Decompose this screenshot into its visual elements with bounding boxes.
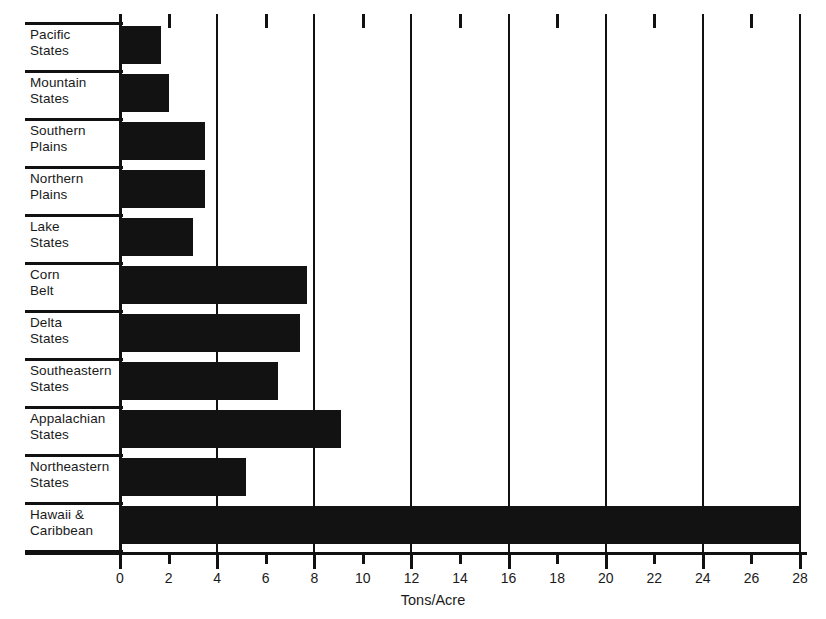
bar-row-group: Pacific StatesMountain StatesSouthern Pl… (0, 22, 826, 550)
row-separator (25, 166, 123, 169)
x-axis-tick-20 (605, 552, 608, 569)
x-axis-line (25, 552, 807, 555)
x-axis-ticklabel: 10 (355, 570, 371, 586)
x-axis-ticklabel: 16 (501, 570, 517, 586)
row-separator (25, 358, 123, 361)
bar-row: Mountain States (0, 70, 826, 118)
bar-row: Southern Plains (0, 118, 826, 166)
bar-row: Southeastern States (0, 358, 826, 406)
x-axis-tick-2 (168, 552, 171, 564)
row-separator (25, 70, 123, 73)
x-axis-tick-28 (799, 552, 802, 569)
x-axis-title-text: Tons/Acre (401, 592, 465, 608)
bar-row: Appalachian States (0, 406, 826, 454)
x-axis-tick-12 (410, 552, 413, 569)
bar-row: Delta States (0, 310, 826, 358)
bar (120, 362, 278, 400)
x-axis-tick-26 (750, 552, 753, 564)
bar (120, 122, 205, 160)
x-axis-tick-6 (265, 552, 268, 564)
row-separator (25, 502, 123, 505)
bar-row: Northern Plains (0, 166, 826, 214)
row-separator (25, 214, 123, 217)
x-axis-tick-24 (702, 552, 705, 569)
bar-category-label: Corn Belt (30, 267, 118, 298)
x-axis-title: Tons/Acre (0, 592, 826, 608)
x-axis-ticklabel: 4 (213, 570, 221, 586)
row-separator (25, 406, 123, 409)
x-axis-ticklabel: 20 (598, 570, 614, 586)
bar (120, 458, 246, 496)
x-axis-ticklabel: 14 (452, 570, 468, 586)
row-separator (25, 262, 123, 265)
bar (120, 26, 161, 64)
bar-category-label: Mountain States (30, 75, 118, 106)
x-axis-ticklabel: 2 (165, 570, 173, 586)
x-axis-ticklabel: 28 (792, 570, 808, 586)
bar-category-label: Delta States (30, 315, 118, 346)
x-axis-ticklabel: 26 (744, 570, 760, 586)
x-axis-ticklabel: 12 (404, 570, 420, 586)
x-axis-ticklabel: 0 (116, 570, 124, 586)
bar (120, 314, 300, 352)
plot-area: Pacific StatesMountain StatesSouthern Pl… (0, 0, 826, 619)
x-axis-ticklabel: 6 (262, 570, 270, 586)
bar-category-label: Appalachian States (30, 411, 118, 442)
bar-row: Northeastern States (0, 454, 826, 502)
bar-row: Hawaii & Caribbean (0, 502, 826, 550)
bar (120, 170, 205, 208)
bar-category-label: Southeastern States (30, 363, 118, 394)
bar (120, 266, 307, 304)
x-axis-tick-22 (653, 552, 656, 564)
x-axis-tick-14 (459, 552, 462, 564)
row-separator (25, 310, 123, 313)
bar (120, 506, 800, 544)
x-axis-ticklabel: 22 (646, 570, 662, 586)
x-axis-ticklabel: 18 (549, 570, 565, 586)
bar-category-label: Southern Plains (30, 123, 118, 154)
bar-category-label: Hawaii & Caribbean (30, 507, 118, 538)
x-axis-ticklabel: 8 (310, 570, 318, 586)
bar (120, 410, 341, 448)
row-separator (25, 22, 123, 25)
bar-row: Lake States (0, 214, 826, 262)
bar-row: Pacific States (0, 22, 826, 70)
x-axis-tick-16 (508, 552, 511, 569)
row-separator (25, 118, 123, 121)
bar-row: Corn Belt (0, 262, 826, 310)
row-separator (25, 454, 123, 457)
bar (120, 74, 169, 112)
bar-category-label: Pacific States (30, 27, 118, 58)
bar (120, 218, 193, 256)
bar-category-label: Lake States (30, 219, 118, 250)
x-axis-tick-4 (216, 552, 219, 569)
x-axis-tick-8 (313, 552, 316, 569)
x-axis-tick-0 (119, 552, 122, 569)
bar-chart: Pacific StatesMountain StatesSouthern Pl… (0, 0, 826, 619)
x-axis-ticklabel: 24 (695, 570, 711, 586)
bar-category-label: Northern Plains (30, 171, 118, 202)
x-axis-tick-10 (362, 552, 365, 564)
bar-category-label: Northeastern States (30, 459, 118, 490)
x-axis-tick-18 (556, 552, 559, 564)
